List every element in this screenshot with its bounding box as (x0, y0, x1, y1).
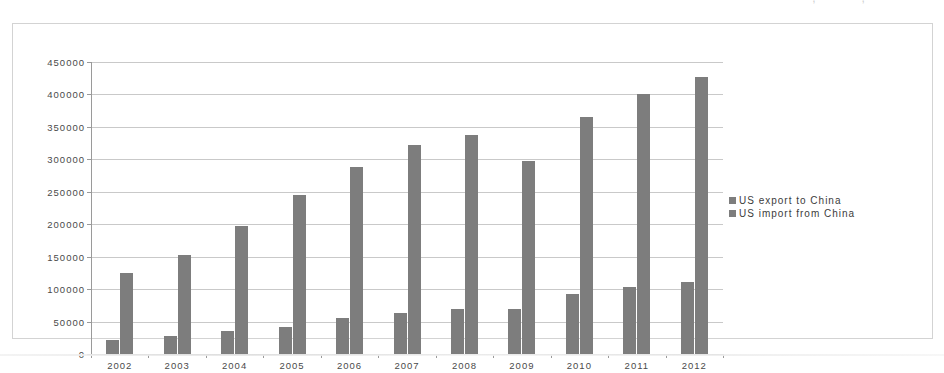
bar-import-2011[interactable] (637, 94, 650, 354)
y-axis-labels: 0500001000001500002000002500003000003500… (13, 62, 85, 354)
chart-legend: US export to ChinaUS import from China (729, 194, 855, 220)
bar-export-2002[interactable] (106, 340, 119, 354)
y-axis-tick-label: 200000 (47, 219, 85, 230)
y-axis-tick-label: 300000 (47, 154, 85, 165)
bar-group (508, 62, 535, 354)
bar-group (451, 62, 478, 354)
bar-import-2003[interactable] (178, 255, 191, 354)
legend-label: US import from China (739, 207, 855, 220)
x-axis-tick-label: 2012 (682, 360, 707, 371)
scan-artifact (0, 354, 944, 356)
clipped-header-text: " — — , — — , (0, 0, 944, 12)
bar-export-2012[interactable] (681, 282, 694, 354)
bar-import-2009[interactable] (522, 161, 535, 354)
x-axis-tick-label: 2005 (280, 360, 305, 371)
bar-export-2004[interactable] (221, 331, 234, 354)
bar-export-2003[interactable] (164, 336, 177, 354)
bar-import-2007[interactable] (408, 145, 421, 354)
x-axis-tick-label: 2007 (394, 360, 419, 371)
bar-import-2005[interactable] (293, 195, 306, 354)
y-axis-tick-label: 450000 (47, 57, 85, 68)
bar-group (106, 62, 133, 354)
x-axis-tick-label: 2004 (222, 360, 247, 371)
bar-export-2007[interactable] (394, 313, 407, 354)
x-axis-tick-label: 2006 (337, 360, 362, 371)
y-axis-tick-label: 50000 (54, 316, 85, 327)
bar-group (336, 62, 363, 354)
x-axis-tick-label: 2009 (509, 360, 534, 371)
y-axis-tick-label: 100000 (47, 284, 85, 295)
x-axis-labels: 2002200320042005200620072008200920102011… (91, 360, 723, 373)
x-axis-tick-label: 2003 (165, 360, 190, 371)
y-axis-tick-label: 250000 (47, 186, 85, 197)
bar-export-2005[interactable] (279, 327, 292, 354)
legend-swatch-icon (729, 197, 736, 204)
x-axis-tick-label: 2010 (567, 360, 592, 371)
bar-export-2011[interactable] (623, 287, 636, 354)
bar-group (566, 62, 593, 354)
bar-group (394, 62, 421, 354)
bar-export-2009[interactable] (508, 309, 521, 354)
bar-import-2010[interactable] (580, 117, 593, 354)
x-axis-tick-label: 2008 (452, 360, 477, 371)
y-axis-line (91, 62, 92, 354)
bar-export-2008[interactable] (451, 309, 464, 354)
bar-group (221, 62, 248, 354)
bar-import-2008[interactable] (465, 135, 478, 354)
y-axis-tick-label: 400000 (47, 89, 85, 100)
bar-export-2006[interactable] (336, 318, 349, 354)
legend-item-import[interactable]: US import from China (729, 207, 855, 220)
y-axis-tick-label: 350000 (47, 121, 85, 132)
bar-group (279, 62, 306, 354)
legend-item-export[interactable]: US export to China (729, 194, 855, 207)
bar-import-2006[interactable] (350, 167, 363, 354)
x-axis-tick-label: 2011 (625, 360, 649, 371)
bar-group (164, 62, 191, 354)
bar-group (681, 62, 708, 354)
bar-import-2002[interactable] (120, 273, 133, 354)
bar-group (623, 62, 650, 354)
legend-label: US export to China (739, 194, 842, 207)
bar-import-2004[interactable] (235, 226, 248, 354)
clipped-header-glyphs: " — — , — — , (762, 0, 867, 5)
x-axis-tick-label: 2002 (107, 360, 132, 371)
plot-area (91, 62, 723, 354)
bar-import-2012[interactable] (695, 77, 708, 354)
chart-container: 0500001000001500002000002500003000003500… (12, 23, 933, 339)
legend-swatch-icon (729, 210, 736, 217)
y-axis-tick-label: 150000 (47, 251, 85, 262)
bar-export-2010[interactable] (566, 294, 579, 354)
